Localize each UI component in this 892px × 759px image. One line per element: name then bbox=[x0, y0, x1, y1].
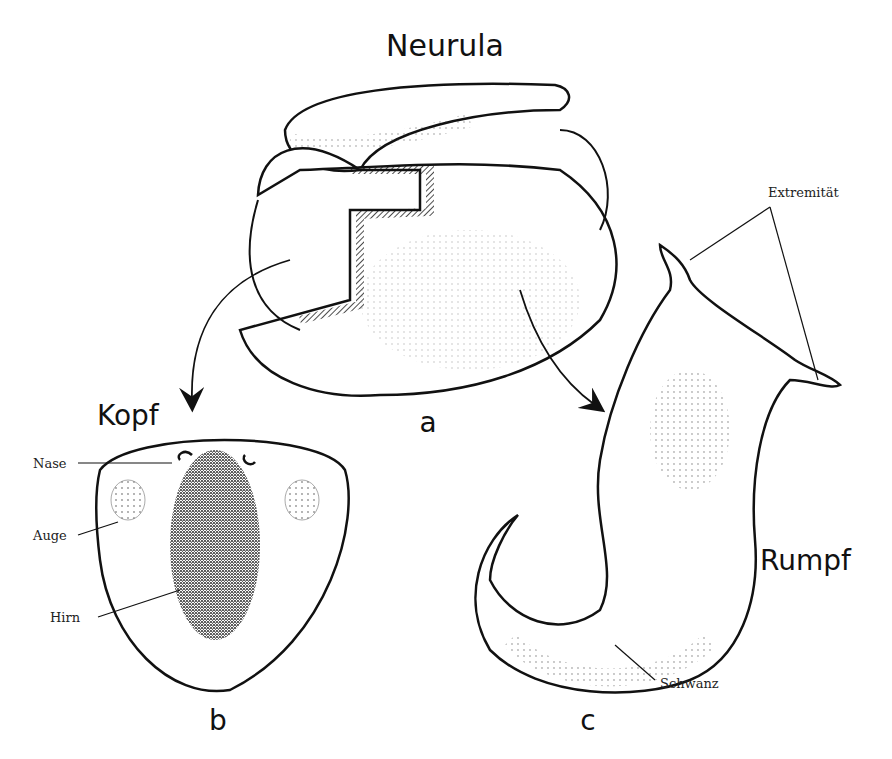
panel-a-letter: a bbox=[419, 406, 436, 439]
panel-b-letter: b bbox=[209, 704, 227, 737]
label-extremitaet: Extremität bbox=[768, 185, 839, 200]
eye-left bbox=[111, 480, 145, 520]
label-auge: Auge bbox=[32, 528, 67, 543]
panel-c-letter: c bbox=[580, 704, 595, 737]
panel-b-kopf: Kopf Nase Auge Hirn b bbox=[32, 399, 349, 737]
label-nase: Nase bbox=[33, 456, 67, 471]
panel-c-title: Rumpf bbox=[760, 544, 852, 577]
panel-a-neurula: a bbox=[240, 84, 616, 439]
figure-title: Neurula bbox=[386, 28, 504, 63]
neurula-diagram: Neurula a Kopf Nase Auge Hirn b bbox=[0, 0, 892, 759]
brain-region bbox=[170, 450, 260, 640]
label-hirn: Hirn bbox=[50, 610, 81, 625]
label-schwanz: Schwanz bbox=[660, 676, 719, 691]
eye-right bbox=[285, 480, 319, 520]
panel-b-title: Kopf bbox=[97, 399, 160, 432]
